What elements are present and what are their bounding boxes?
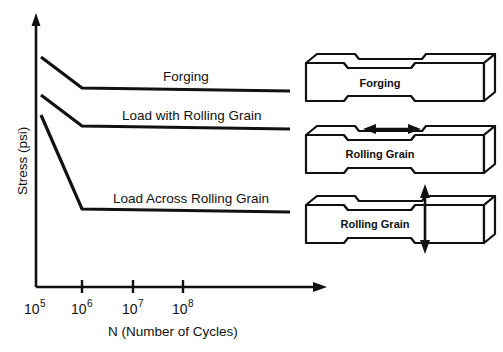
curve-label-with-grain: Load with Rolling Grain	[122, 108, 262, 123]
specimen-with-grain-right-face	[484, 126, 495, 173]
fatigue-curve-figure: 10 5 10 6 10 7 10 8 N (Number of Cycles)…	[0, 0, 503, 352]
x-axis-title: N (Number of Cycles)	[108, 324, 238, 339]
specimen-forging: Forging	[306, 54, 495, 101]
specimen-across-grain-label: Rolling Grain	[340, 218, 409, 230]
specimen-with-grain-label: Rolling Grain	[345, 148, 414, 160]
axes-group	[32, 13, 328, 293]
tick-label-1e8-exponent: 8	[188, 298, 194, 309]
y-axis-title: Stress (psi)	[15, 127, 30, 195]
specimen-forging-right-face	[484, 54, 495, 101]
curve-label-across-grain: Load Across Rolling Grain	[113, 191, 269, 206]
tick-label-1e7-exponent: 7	[138, 298, 144, 309]
tick-label-1e7-base: 10	[122, 301, 138, 317]
x-axis-arrowhead	[313, 282, 327, 292]
tick-label-1e6-base: 10	[71, 301, 87, 317]
specimen-forging-label: Forging	[360, 77, 401, 89]
vertical-arrow-head-bottom	[420, 240, 430, 254]
y-axis-arrowhead	[32, 13, 41, 26]
tick-label-1e5-exponent: 5	[40, 298, 46, 309]
specimen-with-grain: Rolling Grain	[306, 124, 495, 173]
tick-label-1e5-base: 10	[24, 301, 40, 317]
tick-label-1e8-base: 10	[172, 301, 188, 317]
specimen-across-grain-right-face	[484, 196, 495, 243]
vertical-arrow-head-top	[420, 184, 430, 198]
curve-label-forging: Forging	[163, 69, 209, 84]
specimen-across-grain: Rolling Grain	[306, 184, 495, 254]
tick-label-1e6-exponent: 6	[87, 298, 93, 309]
figure-canvas: 10 5 10 6 10 7 10 8 N (Number of Cycles)…	[0, 0, 503, 352]
x-axis-tick-labels: 10 5 10 6 10 7 10 8	[24, 298, 194, 317]
